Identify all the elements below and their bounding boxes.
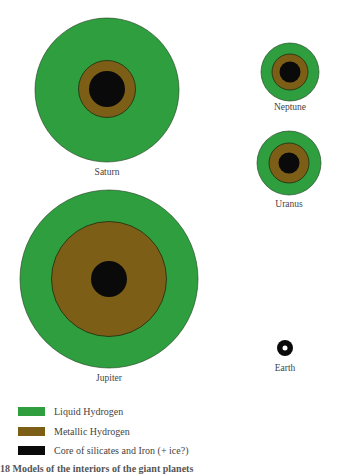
metallic-hydrogen-swatch — [18, 427, 45, 436]
planet-interiors-diagram: Saturn Neptune Uranus Jupiter Earth — [0, 0, 339, 400]
saturn-core — [89, 71, 125, 107]
neptune-label: Neptune — [274, 102, 306, 112]
legend-item-core: Core of silicates and Iron (+ ice?) — [18, 441, 188, 461]
jupiter-label: Jupiter — [96, 373, 123, 383]
uranus-core — [279, 153, 300, 174]
legend-label: Liquid Hydrogen — [54, 406, 123, 417]
figure-caption: 18 Models of the interiors of the giant … — [0, 463, 193, 474]
legend-item-metallic-hydrogen: Metallic Hydrogen — [18, 422, 188, 442]
jupiter-model: Jupiter — [20, 190, 198, 383]
legend: Liquid Hydrogen Metallic Hydrogen Core o… — [18, 402, 188, 461]
saturn-model: Saturn — [35, 18, 179, 177]
core-swatch — [18, 446, 45, 455]
liquid-hydrogen-swatch — [18, 407, 45, 416]
earth-inner-core — [283, 346, 288, 351]
legend-item-liquid-hydrogen: Liquid Hydrogen — [18, 402, 188, 422]
saturn-label: Saturn — [95, 167, 120, 177]
uranus-label: Uranus — [275, 199, 303, 209]
earth-label: Earth — [275, 363, 296, 373]
legend-label: Core of silicates and Iron (+ ice?) — [54, 445, 188, 456]
earth-model: Earth — [275, 340, 296, 373]
neptune-model: Neptune — [261, 43, 319, 112]
uranus-model: Uranus — [257, 131, 321, 209]
jupiter-core — [91, 261, 127, 297]
neptune-core — [280, 62, 301, 83]
legend-label: Metallic Hydrogen — [54, 426, 130, 437]
